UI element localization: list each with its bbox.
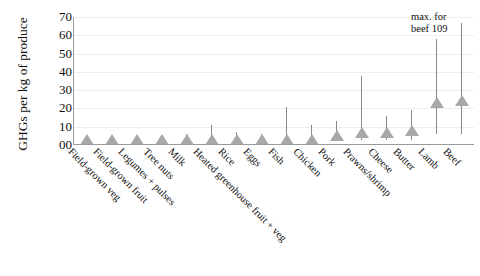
value-marker [330, 130, 344, 141]
x-category-label: Beef [441, 146, 463, 168]
gridline [74, 108, 474, 109]
annotation-line-1: max. for [411, 11, 447, 23]
x-axis-category-labels: Field-grown vegField-grown fruitLegumes … [73, 146, 473, 266]
plot-area [73, 17, 474, 145]
y-tick-label: 60 [46, 28, 72, 41]
gridline [74, 72, 474, 73]
y-tick-label: 30 [46, 83, 72, 96]
ghg-emissions-chart: GHGs per kg of produce 0010203040506070 … [0, 0, 480, 276]
y-axis-tick-labels: 0010203040506070 [44, 0, 72, 276]
x-category-label: Butter [391, 146, 417, 172]
gridline [74, 35, 474, 36]
x-category-label: Fish [266, 146, 287, 167]
gridline [74, 90, 474, 91]
x-category-label: Lamb [416, 146, 441, 171]
x-category-label: Rice [216, 146, 237, 167]
value-marker [455, 95, 469, 106]
x-category-label: Milk [166, 146, 188, 168]
y-tick-label: 40 [46, 65, 72, 78]
y-tick-label: 50 [46, 47, 72, 60]
y-tick-label: 70 [46, 10, 72, 23]
y-tick-label: 00 [46, 138, 72, 151]
x-category-label: Pork [316, 146, 338, 168]
y-axis-title: GHGs per kg of produce [15, 0, 31, 169]
value-marker [355, 127, 369, 138]
error-bar [436, 39, 438, 134]
y-tick-label: 20 [46, 101, 72, 114]
value-marker [405, 125, 419, 136]
gridline [74, 54, 474, 55]
x-axis-line [74, 144, 474, 145]
annotation-line-2: beef 109 [411, 23, 447, 35]
value-marker [430, 97, 444, 108]
error-bar [461, 23, 463, 135]
x-category-label: Eggs [241, 146, 264, 169]
value-marker [380, 127, 394, 138]
max-beef-annotation: max. for beef 109 [411, 11, 447, 34]
y-tick-label: 10 [46, 120, 72, 133]
